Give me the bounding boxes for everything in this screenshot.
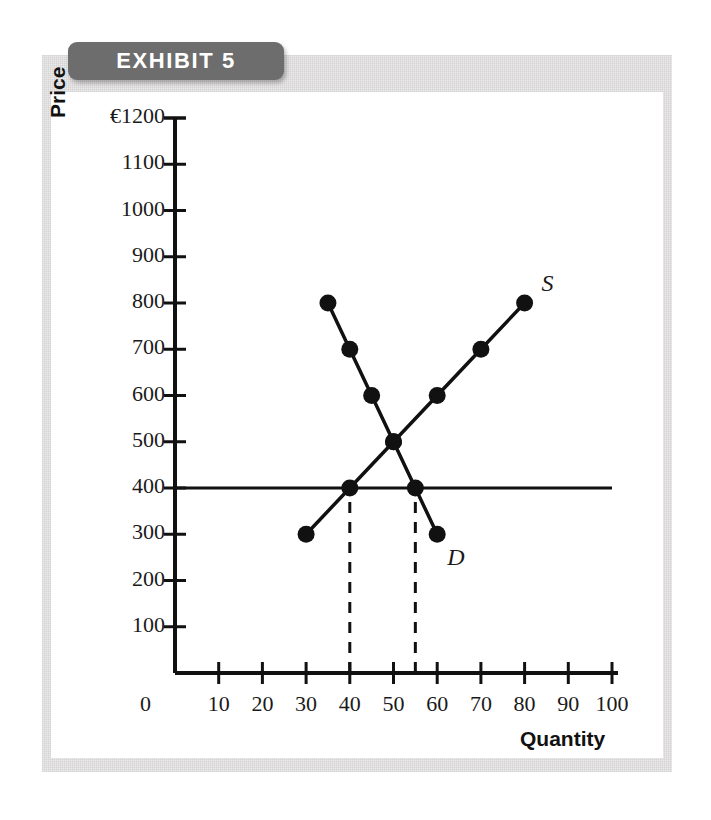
supply-curve-label: S bbox=[542, 270, 554, 297]
x-axis-title: Quantity bbox=[520, 727, 605, 751]
figure-white-panel bbox=[51, 92, 663, 758]
demand-curve-label: D bbox=[447, 544, 464, 571]
y-tick-label: 1100 bbox=[60, 149, 165, 175]
y-tick-label: 100 bbox=[60, 612, 165, 638]
y-tick-label: 600 bbox=[60, 381, 165, 407]
y-tick-label: 800 bbox=[60, 288, 165, 314]
y-tick-label: 700 bbox=[60, 334, 165, 360]
x-tick-label: 100 bbox=[586, 691, 638, 717]
y-tick-label: €1200 bbox=[60, 103, 165, 129]
exhibit-figure: EXHIBIT 5 Price Quantity 100200300400500… bbox=[0, 0, 711, 820]
y-tick-label: 200 bbox=[60, 566, 165, 592]
origin-label: 0 bbox=[140, 691, 151, 717]
y-tick-label: 900 bbox=[60, 242, 165, 268]
exhibit-badge-label: EXHIBIT 5 bbox=[116, 48, 236, 74]
y-tick-label: 400 bbox=[60, 473, 165, 499]
exhibit-badge: EXHIBIT 5 bbox=[68, 42, 284, 80]
y-tick-label: 300 bbox=[60, 519, 165, 545]
y-tick-label: 1000 bbox=[60, 196, 165, 222]
y-tick-label: 500 bbox=[60, 427, 165, 453]
